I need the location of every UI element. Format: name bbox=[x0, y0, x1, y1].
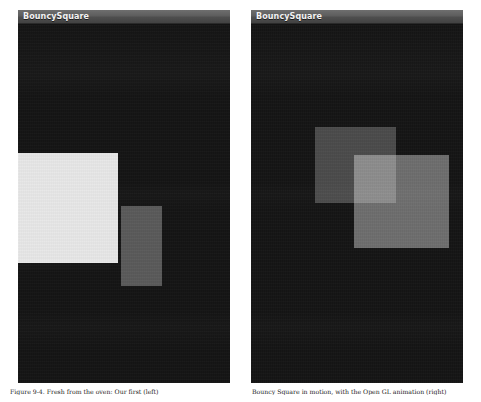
front-square-left bbox=[121, 206, 162, 286]
figure-caption-right: Bouncy Square in motion, with the Open G… bbox=[252, 388, 478, 395]
screenshot-panel-right: BouncySquare bbox=[251, 10, 463, 383]
gl-canvas-right bbox=[251, 25, 463, 383]
front-square-right bbox=[354, 155, 449, 248]
app-title-bar: BouncySquare bbox=[251, 10, 463, 24]
figure-caption: Figure 9-4. Fresh from the oven: Our fir… bbox=[0, 388, 481, 402]
back-square-left bbox=[18, 153, 118, 263]
figure-container: BouncySquare BouncySquare Figure 9-4. Fr… bbox=[0, 0, 481, 402]
app-title-bar: BouncySquare bbox=[18, 10, 230, 24]
app-title-label: BouncySquare bbox=[256, 10, 322, 24]
gl-canvas-left bbox=[18, 25, 230, 383]
app-title-label: BouncySquare bbox=[23, 10, 89, 24]
screenshot-panel-left: BouncySquare bbox=[18, 10, 230, 383]
figure-caption-left: Figure 9-4. Fresh from the oven: Our fir… bbox=[10, 388, 232, 395]
